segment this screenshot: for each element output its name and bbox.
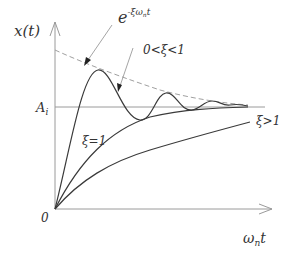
envelope-label: e-ξωnt xyxy=(118,7,151,27)
critical-curve xyxy=(55,107,248,209)
envelope-leader xyxy=(84,25,112,66)
x-axis xyxy=(55,204,272,214)
x-axis-label: ωnt xyxy=(243,230,266,248)
origin-label: 0 xyxy=(41,211,49,225)
critical-label: ξ=1 xyxy=(82,134,106,148)
arrowhead-icon xyxy=(84,57,91,66)
overdamped-label: ξ>1 xyxy=(256,114,280,128)
steady-state-label: Ai xyxy=(35,100,48,117)
envelope-curve xyxy=(55,50,248,105)
arrowhead-icon xyxy=(117,83,122,92)
step-response-diagram: x(t) e-ξωnt 0<ξ<1 Ai ξ=1 ξ>1 0 ωnt xyxy=(0,0,288,254)
y-axis-label: x(t) xyxy=(14,22,40,40)
underdamped-leader xyxy=(117,48,133,92)
underdamped-label: 0<ξ<1 xyxy=(143,43,185,57)
